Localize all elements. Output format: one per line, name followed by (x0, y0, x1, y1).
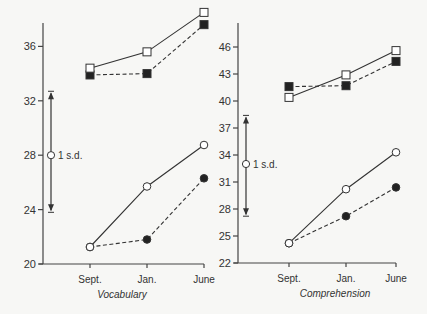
open-square-marker (200, 8, 208, 16)
open-circle-marker (143, 183, 151, 191)
y-tick-label: 28 (24, 149, 36, 161)
y-tick-label: 34 (219, 149, 231, 161)
filled-circle-marker (143, 236, 151, 244)
y-tick-label: 31 (219, 176, 231, 188)
filled-square-marker (285, 83, 293, 91)
y-tick-label: 32 (24, 95, 36, 107)
x-tick-label: Jan. (337, 273, 356, 284)
open-square-marker (392, 47, 400, 55)
filled-circle-marker (392, 184, 400, 192)
open-square-marker (342, 71, 350, 79)
series-line (289, 152, 396, 243)
series-line (90, 145, 204, 247)
y-tick-label: 25 (219, 230, 231, 242)
arrow-down-icon (243, 208, 249, 215)
filled-circle-marker (200, 175, 208, 183)
sd-label: 1 s.d. (58, 150, 82, 161)
open-circle-marker (86, 243, 94, 251)
sd-label: 1 s.d. (253, 159, 277, 170)
x-tick-label: Sept. (277, 273, 300, 284)
chart-figure: 2024283236Sept.Jan.JuneVocabulary1 s.d.2… (0, 0, 427, 314)
filled-square-marker (200, 21, 208, 29)
open-circle-marker (342, 185, 350, 193)
y-tick-label: 43 (219, 68, 231, 80)
x-tick-label: Sept. (78, 274, 101, 285)
y-tick-label: 37 (219, 122, 231, 134)
filled-square-marker (392, 57, 400, 65)
panel-vocabulary: 2024283236Sept.Jan.JuneVocabulary1 s.d. (24, 8, 216, 300)
open-square-marker (285, 93, 293, 101)
panel-title: Vocabulary (97, 289, 148, 300)
x-tick-label: June (193, 274, 215, 285)
y-tick-label: 28 (219, 203, 231, 215)
y-tick-label: 22 (219, 257, 231, 269)
arrow-up-icon (48, 92, 54, 99)
open-circle-marker (392, 149, 400, 157)
x-tick-label: Jan. (138, 274, 157, 285)
arrow-down-icon (48, 204, 54, 211)
y-tick-label: 24 (24, 204, 36, 216)
filled-square-marker (342, 82, 350, 90)
y-tick-label: 36 (24, 40, 36, 52)
arrow-up-icon (243, 116, 249, 123)
open-square-marker (143, 48, 151, 56)
sd-bar: 1 s.d. (242, 115, 277, 216)
open-circle-icon (47, 152, 54, 159)
series-line (90, 12, 204, 68)
filled-square-marker (143, 70, 151, 78)
y-tick-label: 40 (219, 95, 231, 107)
filled-circle-marker (342, 212, 350, 220)
open-circle-marker (200, 141, 208, 149)
open-square-marker (86, 64, 94, 72)
panel-title: Comprehension (300, 288, 371, 299)
y-tick-label: 46 (219, 41, 231, 53)
open-circle-marker (285, 239, 293, 247)
y-tick-label: 20 (24, 258, 36, 270)
open-circle-icon (242, 160, 249, 167)
sd-bar: 1 s.d. (47, 91, 82, 212)
panel-comprehension: 222528313437404346Sept.Jan.JuneComprehen… (219, 23, 408, 299)
x-tick-label: June (385, 273, 407, 284)
